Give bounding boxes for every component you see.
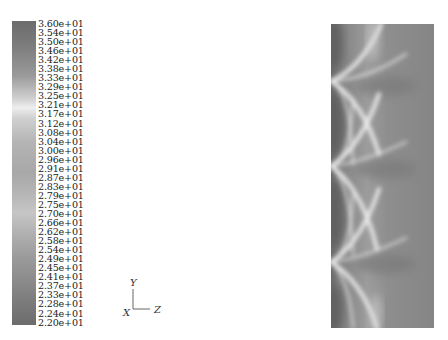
- triad-y-label: Y: [130, 278, 137, 288]
- triad-z-label: Z: [154, 305, 161, 315]
- contour-field: [331, 24, 434, 328]
- colorbar: [12, 21, 36, 325]
- triad-x-label: X: [123, 308, 130, 318]
- colorbar-labels: 3.60e+01 3.54e+01 3.50e+01 3.46e+01 3.42…: [38, 19, 98, 327]
- contour-plot: [331, 24, 434, 328]
- colorbar-tick-label: 2.20e+01: [38, 318, 98, 327]
- axes-triad: Y Z X: [118, 276, 174, 320]
